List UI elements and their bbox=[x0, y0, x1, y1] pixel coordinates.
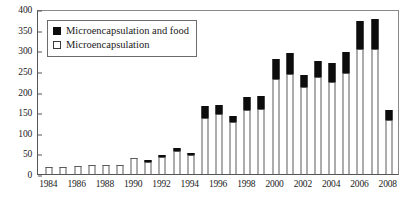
y-tick-mark bbox=[38, 31, 42, 32]
bar-segment-micro bbox=[60, 167, 67, 174]
legend-swatch-filled bbox=[53, 27, 61, 35]
bar-1996 bbox=[216, 105, 223, 174]
y-tick-label-300: 300 bbox=[0, 46, 32, 56]
bar-1992 bbox=[159, 155, 166, 174]
bar-segment-micro bbox=[88, 165, 95, 174]
x-tick-label-2002: 2002 bbox=[294, 179, 312, 189]
bar-segment-micro bbox=[314, 77, 321, 174]
bar-segment-food bbox=[244, 97, 251, 110]
bar-segment-micro bbox=[173, 151, 180, 175]
bar-segment-micro bbox=[117, 165, 124, 174]
bar-2006 bbox=[357, 21, 364, 174]
bar-chart: 050100150200250300350400 198419861988199… bbox=[0, 0, 408, 214]
bar-2001 bbox=[286, 53, 293, 174]
y-tick-mark bbox=[38, 72, 42, 73]
x-tick-label-2004: 2004 bbox=[322, 179, 340, 189]
x-tick-label-1994: 1994 bbox=[181, 179, 199, 189]
x-tick-label-2000: 2000 bbox=[265, 179, 283, 189]
y-tick-mark bbox=[38, 155, 42, 156]
legend-label: Microencapsulation bbox=[66, 38, 149, 52]
bar-2002 bbox=[300, 75, 307, 174]
bar-2004 bbox=[329, 63, 336, 174]
bar-segment-food bbox=[329, 63, 336, 82]
bar-1984 bbox=[46, 167, 53, 174]
bar-1993 bbox=[173, 148, 180, 174]
bar-1999 bbox=[258, 96, 265, 174]
bar-1988 bbox=[102, 165, 109, 174]
bar-segment-micro bbox=[385, 120, 392, 174]
y-tick-label-50: 50 bbox=[0, 149, 32, 159]
legend-item-0: Microencapsulation and food bbox=[53, 24, 189, 38]
bar-1987 bbox=[88, 165, 95, 174]
bar-1997 bbox=[230, 116, 237, 174]
bar-2007 bbox=[371, 19, 378, 174]
bar-segment-food bbox=[343, 52, 350, 73]
x-tick-label-1986: 1986 bbox=[67, 179, 85, 189]
bar-segment-micro bbox=[201, 118, 208, 175]
bar-segment-micro bbox=[371, 49, 378, 174]
bar-1986 bbox=[74, 166, 81, 174]
bar-2005 bbox=[343, 52, 350, 174]
bar-segment-food bbox=[300, 75, 307, 87]
x-tick-label-1984: 1984 bbox=[39, 179, 57, 189]
bar-1995 bbox=[201, 106, 208, 174]
x-tick-label-1990: 1990 bbox=[124, 179, 142, 189]
bar-segment-micro bbox=[357, 49, 364, 174]
bar-segment-food bbox=[286, 53, 293, 74]
bar-1998 bbox=[244, 97, 251, 174]
y-tick-mark bbox=[38, 93, 42, 94]
y-tick-mark bbox=[38, 114, 42, 115]
y-tick-mark bbox=[38, 134, 42, 135]
bar-segment-micro bbox=[187, 155, 194, 174]
bar-segment-micro bbox=[102, 165, 109, 174]
bar-segment-micro bbox=[131, 158, 138, 174]
y-tick-label-150: 150 bbox=[0, 108, 32, 118]
bar-segment-micro bbox=[329, 82, 336, 174]
y-tick-label-100: 100 bbox=[0, 129, 32, 139]
x-tick-label-2006: 2006 bbox=[350, 179, 368, 189]
bar-segment-micro bbox=[343, 73, 350, 174]
bar-segment-food bbox=[385, 110, 392, 121]
bar-1989 bbox=[117, 165, 124, 174]
bar-1994 bbox=[187, 153, 194, 174]
y-tick-mark bbox=[38, 11, 42, 12]
bar-segment-micro bbox=[46, 167, 53, 174]
bar-segment-food bbox=[201, 106, 208, 118]
bar-segment-micro bbox=[244, 110, 251, 174]
x-tick-label-1998: 1998 bbox=[237, 179, 255, 189]
legend-label: Microencapsulation and food bbox=[66, 24, 189, 38]
x-tick-label-1996: 1996 bbox=[209, 179, 227, 189]
bar-segment-micro bbox=[286, 74, 293, 174]
y-tick-label-350: 350 bbox=[0, 26, 32, 36]
bar-segment-micro bbox=[230, 122, 237, 174]
bar-1990 bbox=[131, 158, 138, 174]
y-tick-label-250: 250 bbox=[0, 67, 32, 77]
y-tick-label-0: 0 bbox=[0, 170, 32, 180]
legend-item-1: Microencapsulation bbox=[53, 38, 189, 52]
chart-legend: Microencapsulation and foodMicroencapsul… bbox=[47, 20, 197, 57]
bar-segment-food bbox=[314, 61, 321, 78]
legend-swatch-hollow bbox=[53, 41, 61, 49]
bar-segment-micro bbox=[258, 109, 265, 174]
y-tick-label-200: 200 bbox=[0, 88, 32, 98]
bar-segment-micro bbox=[74, 166, 81, 174]
bar-1991 bbox=[145, 160, 152, 174]
bar-2008 bbox=[385, 110, 392, 174]
bar-segment-food bbox=[258, 96, 265, 109]
y-tick-label-400: 400 bbox=[0, 5, 32, 15]
bar-segment-micro bbox=[272, 79, 279, 174]
bar-2003 bbox=[314, 61, 321, 174]
bar-1985 bbox=[60, 167, 67, 174]
bar-segment-micro bbox=[145, 162, 152, 174]
x-tick-label-1988: 1988 bbox=[96, 179, 114, 189]
bar-segment-micro bbox=[216, 114, 223, 174]
bar-2000 bbox=[272, 59, 279, 174]
bar-segment-micro bbox=[300, 87, 307, 174]
bar-segment-food bbox=[272, 59, 279, 79]
x-tick-label-1992: 1992 bbox=[152, 179, 170, 189]
bar-segment-food bbox=[371, 19, 378, 49]
bar-segment-food bbox=[357, 21, 364, 49]
x-tick-label-2008: 2008 bbox=[379, 179, 397, 189]
y-tick-mark bbox=[38, 176, 42, 177]
y-tick-mark bbox=[38, 52, 42, 53]
